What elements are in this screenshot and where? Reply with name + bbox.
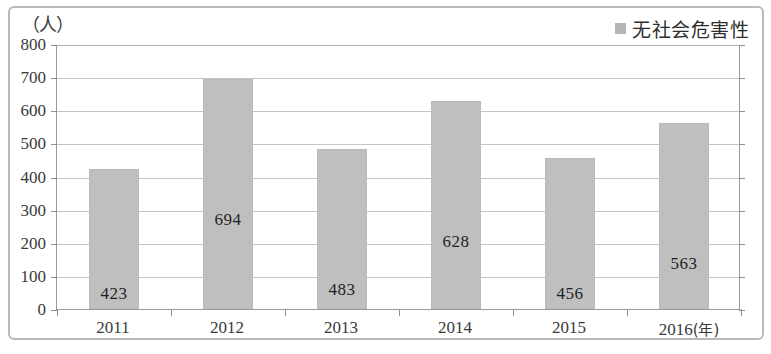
- bar-value-label: 483: [318, 280, 366, 300]
- y-axis-tick-mark: [51, 144, 57, 145]
- chart-legend: 无社会危害性: [615, 15, 749, 42]
- bar[interactable]: 483: [317, 149, 367, 309]
- x-axis-tick-label: 2012: [210, 318, 244, 338]
- y-axis-tick-mark-right: [739, 144, 745, 145]
- bar[interactable]: 563: [659, 123, 709, 309]
- x-axis-tick-mark: [741, 309, 742, 316]
- bar-value-label: 563: [660, 254, 708, 274]
- y-axis-tick-label: 100: [21, 267, 47, 287]
- y-axis-tick-mark: [51, 178, 57, 179]
- y-axis-tick-mark-right: [739, 211, 745, 212]
- y-axis-tick-mark: [51, 277, 57, 278]
- y-axis-tick-mark: [51, 211, 57, 212]
- x-axis-tick-label: 2015: [552, 318, 586, 338]
- legend-item-label: 无社会危害性: [632, 15, 749, 42]
- gridline: [57, 211, 739, 212]
- x-axis-tick-label-text: 2016: [659, 320, 693, 339]
- bar-chart-figure: （人） 无社会危害性 8007006005004003002001000 423…: [0, 0, 771, 354]
- y-axis-tick-label: 400: [21, 168, 47, 188]
- x-axis-tick-mark: [285, 309, 286, 316]
- x-axis-unit-label: (年): [693, 321, 720, 339]
- y-axis-tick-label: 0: [38, 300, 47, 320]
- legend-swatch-icon: [615, 23, 626, 34]
- x-axis-tick-mark: [513, 309, 514, 316]
- gridline: [57, 178, 739, 179]
- y-axis-tick-label: 800: [21, 35, 47, 55]
- gridline: [57, 144, 739, 145]
- plot-area: 423694483628456563: [56, 45, 740, 310]
- x-axis-tick-label: 2011: [96, 318, 129, 338]
- x-axis-tick-mark: [627, 309, 628, 316]
- y-axis-tick-label: 600: [21, 101, 47, 121]
- bar-value-label: 694: [204, 210, 252, 230]
- y-axis-tick-label: 300: [21, 201, 47, 221]
- bar[interactable]: 456: [545, 158, 595, 309]
- y-axis-tick-label: 200: [21, 234, 47, 254]
- y-axis-tick-label: 500: [21, 134, 47, 154]
- gridline: [57, 45, 739, 46]
- bar[interactable]: 423: [89, 169, 139, 309]
- x-axis-tick-mark: [399, 309, 400, 316]
- gridline: [57, 78, 739, 79]
- bar-value-label: 456: [546, 284, 594, 304]
- y-axis-tick-label: 700: [21, 68, 47, 88]
- y-axis-tick-mark: [51, 244, 57, 245]
- x-axis-tick-label: 2013: [324, 318, 358, 338]
- y-axis-tick-mark-right: [739, 111, 745, 112]
- x-axis-tick-mark: [57, 309, 58, 316]
- y-axis-tick-mark-right: [739, 244, 745, 245]
- y-axis-tick-mark-right: [739, 310, 745, 311]
- y-axis-tick-mark-right: [739, 45, 745, 46]
- y-axis-tick-labels: 8007006005004003002001000: [0, 45, 46, 310]
- y-axis-tick-mark-right: [739, 78, 745, 79]
- gridline: [57, 111, 739, 112]
- bar-value-label: 423: [90, 284, 138, 304]
- x-axis-tick-mark: [171, 309, 172, 316]
- y-axis-tick-mark: [51, 45, 57, 46]
- bar[interactable]: 628: [431, 101, 481, 309]
- x-axis-tick-label: 2016(年): [659, 318, 720, 340]
- x-axis-tick-label: 2014: [438, 318, 472, 338]
- bar-value-label: 628: [432, 232, 480, 252]
- y-axis-tick-mark: [51, 111, 57, 112]
- y-axis-tick-mark-right: [739, 277, 745, 278]
- y-axis-tick-mark-right: [739, 178, 745, 179]
- gridline: [57, 277, 739, 278]
- gridline: [57, 244, 739, 245]
- y-axis-unit-label: （人）: [22, 10, 73, 36]
- y-axis-tick-mark: [51, 78, 57, 79]
- bar[interactable]: 694: [203, 79, 253, 309]
